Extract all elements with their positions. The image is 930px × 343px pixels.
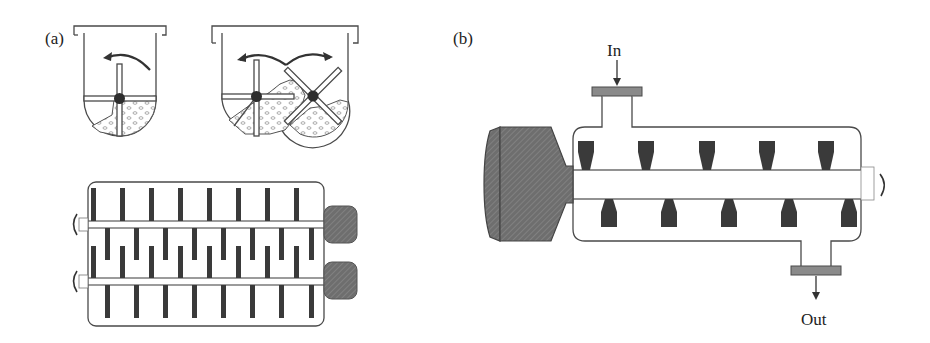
left-shaft-hub: [251, 91, 262, 102]
panel-a-label: (a): [45, 29, 64, 48]
lower-shaft: [88, 278, 324, 285]
rotation-arc-icon: [880, 174, 884, 196]
motor: [484, 127, 573, 241]
inlet-label: In: [607, 41, 622, 60]
rotation-arc-upper-icon: [74, 214, 78, 235]
upper-shaft: [88, 221, 324, 228]
twin-shaft-top-view: [74, 182, 358, 326]
shaft-hub: [114, 93, 125, 104]
lower-motor: [324, 262, 357, 299]
rotation-arrow-left-icon: [237, 53, 246, 62]
single-shaft-cross-section: [74, 26, 166, 136]
main-shaft: [573, 170, 873, 199]
panel-b: (b) In: [453, 29, 884, 329]
rotation-arrow-icon: [103, 52, 112, 61]
inlet-flange: [592, 87, 642, 96]
outlet-flange: [791, 266, 841, 275]
mixer-diagram: (a): [0, 0, 930, 343]
rotation-arrow-right-icon: [323, 52, 333, 61]
panel-a: (a): [45, 26, 367, 326]
twin-shaft-cross-section: [212, 26, 367, 150]
panel-b-label: (b): [453, 29, 473, 48]
outlet-label: Out: [801, 310, 827, 329]
rotation-arc-lower-icon: [74, 271, 78, 292]
right-shaft-hub: [308, 91, 319, 102]
upper-motor: [324, 206, 357, 243]
